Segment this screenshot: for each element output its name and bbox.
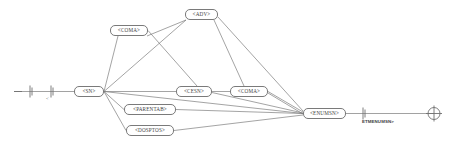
node-adv[interactable]: <ADV> [185,9,218,20]
node-sn[interactable]: <SN> [74,86,104,97]
exit-spine [346,106,442,122]
coma-mid-edges [268,92,303,115]
node-coma-top[interactable]: <COMA> [110,25,148,36]
syntax-diagram-canvas: <SN> <COMA> <ADV> <CESN> <COMA> <PARENTA… [0,0,460,148]
diagram-edges-layer [0,0,460,148]
node-coma-mid[interactable]: <COMA> [230,86,268,97]
node-dosptos[interactable]: <DOSPTOS> [126,125,174,136]
coma-top-edges [147,20,197,86]
entry-terminator-label: < [46,96,49,101]
lower-branch-edges [174,110,303,131]
entry-spine [14,86,74,98]
node-parentab[interactable]: <PARENTAB> [124,104,176,115]
node-enumsn[interactable]: <ENUMSN> [303,108,346,119]
node-cesn[interactable]: <CESN> [176,86,212,97]
edge-label-etmenumsn: ETMENUMSN> [362,120,394,124]
